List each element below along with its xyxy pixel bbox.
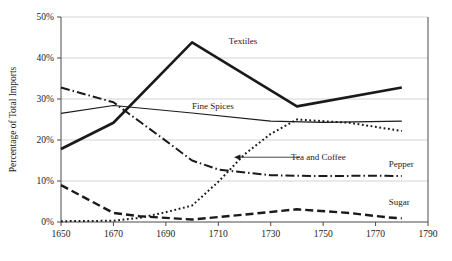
series-label-fine-spices: Fine Spices: [192, 101, 234, 111]
y-tick-label: 10%: [37, 176, 55, 186]
y-tick-label: 50%: [37, 12, 55, 22]
series-line-tea-and-coffee: [61, 120, 402, 222]
chart-container: 0%10%20%30%40%50%16501670169017101730175…: [0, 0, 452, 261]
y-axis-title: Percentage of Total Imports: [8, 66, 18, 172]
y-tick-label: 20%: [37, 135, 55, 145]
series-line-sugar: [61, 185, 402, 219]
x-tick-label: 1690: [156, 229, 175, 239]
y-axis-title-text: Percentage of Total Imports: [8, 66, 18, 172]
x-tick-label: 1770: [366, 229, 385, 239]
y-tick-label: 30%: [37, 94, 55, 104]
y-tick-label: 40%: [37, 53, 55, 63]
series-label-tea-and-coffee: Tea and Coffee: [291, 152, 346, 162]
data-series: [61, 42, 402, 221]
series-label-pepper: Pepper: [389, 159, 414, 169]
x-tick-label: 1730: [261, 229, 280, 239]
chart-annotations: Tea and Coffee: [234, 152, 346, 162]
series-label-sugar: Sugar: [389, 197, 410, 207]
x-tick-label: 1670: [104, 229, 123, 239]
y-tick-label: 0%: [41, 217, 54, 227]
line-chart: 0%10%20%30%40%50%16501670169017101730175…: [0, 0, 452, 261]
x-tick-label: 1750: [314, 229, 333, 239]
x-tick-label: 1710: [209, 229, 228, 239]
series-label-textiles: Textiles: [229, 36, 258, 46]
x-tick-label: 1790: [419, 229, 438, 239]
annotation-arrowhead: [234, 154, 241, 160]
series-line-textiles: [61, 42, 402, 149]
x-tick-label: 1650: [52, 229, 71, 239]
